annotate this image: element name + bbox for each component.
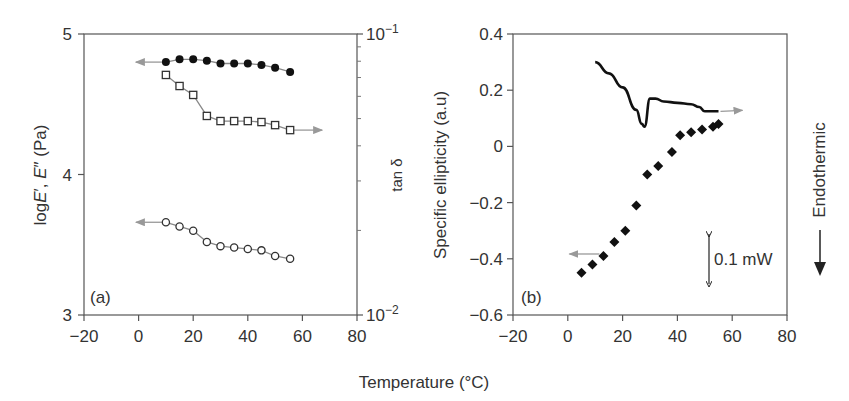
panel-b-x-ticks: −20020406080 xyxy=(499,315,797,346)
x-tick-label: 60 xyxy=(723,327,742,346)
data-point xyxy=(230,60,238,68)
x-tick-label: 40 xyxy=(238,327,257,346)
x-tick-label: 0 xyxy=(134,327,143,346)
data-point xyxy=(287,255,294,262)
panel-a-y-ticks xyxy=(78,34,84,315)
x-tick-label: 0 xyxy=(563,327,572,346)
panel-b: −20020406080 −0.6−0.4−0.200.20.4 Specifi… xyxy=(431,25,829,346)
data-point xyxy=(244,117,251,124)
data-point xyxy=(653,161,663,171)
x-tick-label: −20 xyxy=(70,327,99,346)
svg-text:Endothermic: Endothermic xyxy=(810,122,829,218)
data-point xyxy=(190,227,197,234)
data-point xyxy=(176,55,184,63)
data-point xyxy=(609,237,619,247)
axis-pointer-right-icon xyxy=(721,110,743,111)
panel-a-x-ticks: −20020406080 xyxy=(70,315,367,346)
panel-a-ytick-3: 3 xyxy=(63,306,72,325)
dsc-line xyxy=(595,62,718,127)
data-point xyxy=(631,200,641,210)
panel-b-ylabel: Specific ellipticity (a.u) xyxy=(431,91,450,259)
panel-a-ytick-4: 4 xyxy=(63,166,72,185)
data-point xyxy=(620,226,630,236)
data-point xyxy=(190,91,197,98)
data-point xyxy=(176,82,183,89)
panel-a: −20020406080 5 4 3 10−1 10−2 logE′, E″ (… xyxy=(31,22,405,346)
data-point xyxy=(258,247,265,254)
data-point xyxy=(203,112,210,119)
data-point xyxy=(675,130,685,140)
data-point xyxy=(272,252,279,259)
panel-a-rtick-bottom: 10−2 xyxy=(366,303,399,325)
data-point xyxy=(231,117,238,124)
panel-a-ylabel: logE′, E″ (Pa) xyxy=(31,125,50,226)
x-tick-label: 60 xyxy=(293,327,312,346)
data-point xyxy=(217,60,225,68)
y-tick-label: 0 xyxy=(494,137,503,156)
data-point xyxy=(598,251,608,261)
data-point xyxy=(258,118,265,125)
data-point xyxy=(231,244,238,251)
endothermic-arrowhead-icon xyxy=(814,262,826,276)
data-point xyxy=(686,127,696,137)
data-point xyxy=(271,64,279,72)
series-filled-circle xyxy=(136,55,294,76)
data-point xyxy=(162,71,169,78)
data-point xyxy=(287,126,294,133)
data-point xyxy=(176,223,183,230)
panel-a-ytick-5: 5 xyxy=(63,25,72,44)
figure: −20020406080 5 4 3 10−1 10−2 logE′, E″ (… xyxy=(0,0,849,401)
x-tick-label: 80 xyxy=(778,327,797,346)
x-tick-label: −20 xyxy=(499,327,528,346)
data-point xyxy=(697,125,707,135)
panel-a-label: (a) xyxy=(90,288,111,307)
panel-a-rtick-top: 10−1 xyxy=(366,22,399,44)
data-point xyxy=(642,170,652,180)
panel-b-series xyxy=(569,62,742,278)
panel-a-series xyxy=(136,55,322,262)
data-point xyxy=(203,57,211,65)
y-tick-label: −0.6 xyxy=(469,306,503,325)
scale-bar: 0.1 mW xyxy=(709,234,773,284)
panel-b-label: (b) xyxy=(521,288,542,307)
y-tick-label: 0.4 xyxy=(479,25,503,44)
data-point xyxy=(272,122,279,129)
series-open-square xyxy=(162,71,322,133)
y-tick-label: −0.4 xyxy=(469,250,503,269)
data-point xyxy=(203,238,210,245)
x-tick-label: 80 xyxy=(348,327,367,346)
data-point xyxy=(577,268,587,278)
data-point xyxy=(217,117,224,124)
panel-a-ylabel-right: tan δ xyxy=(388,158,405,191)
x-tick-label: 20 xyxy=(613,327,632,346)
panel-a-right-ticks xyxy=(357,34,363,315)
y-tick-label: 0.2 xyxy=(479,81,503,100)
data-point xyxy=(257,61,265,69)
endothermic-label: Endothermic xyxy=(810,122,829,276)
data-point xyxy=(667,147,677,157)
scale-bar-label: 0.1 mW xyxy=(714,250,773,269)
x-axis-label: Temperature (°C) xyxy=(359,373,490,392)
panel-a-axes xyxy=(84,34,357,315)
panel-b-y-ticks: −0.6−0.4−0.200.20.4 xyxy=(469,25,513,325)
data-point xyxy=(162,58,170,66)
data-point xyxy=(189,55,197,63)
x-tick-label: 20 xyxy=(184,327,203,346)
y-tick-label: −0.2 xyxy=(469,194,503,213)
series-diamonds xyxy=(569,119,723,278)
series-dsc-curve xyxy=(595,62,742,127)
x-tick-label: 40 xyxy=(668,327,687,346)
data-point xyxy=(217,243,224,250)
data-point xyxy=(286,68,294,76)
data-point xyxy=(162,219,169,226)
series-open-circle xyxy=(136,219,294,263)
data-point xyxy=(244,245,251,252)
data-point xyxy=(587,259,597,269)
data-point xyxy=(244,60,252,68)
